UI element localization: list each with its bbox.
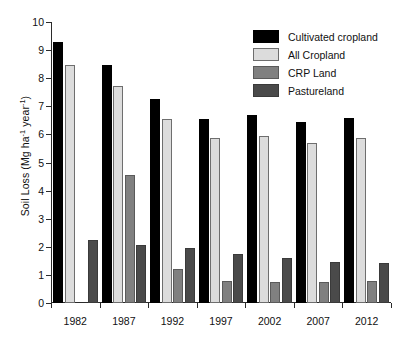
- x-axis-tick-label: 1992: [161, 315, 184, 327]
- x-axis-tick-mark: [148, 303, 149, 308]
- legend-item: CRP Land: [253, 64, 378, 81]
- legend-swatch: [253, 48, 279, 61]
- y-axis-tick-label: 0: [38, 297, 44, 309]
- legend-item: Cultivated cropland: [253, 28, 378, 45]
- bar: [356, 138, 366, 303]
- x-axis-tick-label: 1997: [209, 315, 232, 327]
- bar-chart: Soil Loss (Mg ha-1 year-1) 012345678910 …: [0, 0, 407, 337]
- y-axis-title: Soil Loss (Mg ha-1 year-1): [19, 46, 31, 266]
- bar: [367, 281, 377, 303]
- y-axis-title-suffix: ): [19, 96, 31, 100]
- y-axis-tick-label: 1: [38, 269, 44, 281]
- y-axis-title-sup-1: -1: [18, 130, 27, 137]
- y-axis-title-prefix: Soil Loss (Mg ha: [19, 136, 31, 216]
- y-axis-title-middle: year: [19, 106, 31, 130]
- legend-label: Cultivated cropland: [288, 31, 378, 43]
- x-axis-tick-label: 1982: [64, 315, 87, 327]
- legend-label: Pastureland: [288, 85, 344, 97]
- legend-swatch: [253, 66, 279, 79]
- y-axis-tick-label: 4: [38, 185, 44, 197]
- x-axis-tick-mark: [197, 303, 198, 308]
- x-axis-tick-label: 1987: [112, 315, 135, 327]
- x-axis-tick-mark: [51, 303, 52, 308]
- y-axis-tick-label: 8: [38, 72, 44, 84]
- x-axis-tick-mark: [342, 303, 343, 308]
- legend-label: CRP Land: [288, 67, 336, 79]
- x-axis-tick-label: 2012: [355, 315, 378, 327]
- y-axis-tick-label: 6: [38, 128, 44, 140]
- legend-item: Pastureland: [253, 82, 378, 99]
- y-axis-tick-label: 10: [32, 16, 44, 28]
- y-axis-tick-label: 9: [38, 44, 44, 56]
- x-axis-tick-mark: [391, 303, 392, 308]
- x-axis-tick-mark: [245, 303, 246, 308]
- legend-item: All Cropland: [253, 46, 378, 63]
- x-axis-tick-label: 2002: [258, 315, 281, 327]
- x-axis-tick-mark: [100, 303, 101, 308]
- legend-label: All Cropland: [288, 49, 345, 61]
- y-axis-title-sup-2: -1: [18, 99, 27, 106]
- y-axis-tick-label: 2: [38, 241, 44, 253]
- x-axis-tick-label: 2007: [306, 315, 329, 327]
- bar: [379, 263, 389, 303]
- legend-swatch: [253, 84, 279, 97]
- y-axis-tick-label: 5: [38, 157, 44, 169]
- chart-legend: Cultivated croplandAll CroplandCRP LandP…: [253, 28, 378, 100]
- y-axis-tick-label: 7: [38, 100, 44, 112]
- y-axis-tick-label: 3: [38, 213, 44, 225]
- bar: [344, 118, 354, 303]
- x-axis-tick-mark: [294, 303, 295, 308]
- legend-swatch: [253, 30, 279, 43]
